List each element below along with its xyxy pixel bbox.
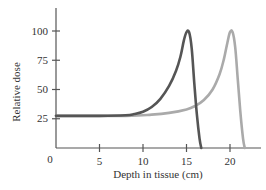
dose-depth-chart: 100 75 50 25 0 5 10 15 20 Depth in tissu… [0,0,266,190]
y-tick-label-100: 100 [32,25,49,37]
y-axis-label: Relative dose [10,62,22,122]
y-tick-label-25: 25 [37,112,49,124]
y-tick-label-75: 75 [37,54,49,66]
dose-curve-20cm-dark [56,30,201,148]
x-tick-label-0: 0 [47,153,53,165]
x-tick-label-5: 5 [97,155,103,167]
x-tick-label-20: 20 [225,155,237,167]
x-axis-label: Depth in tissue (cm) [113,168,203,181]
y-tick-label-50: 50 [37,83,49,95]
x-tick-label-10: 10 [138,155,150,167]
dose-curve-15cm [56,30,245,148]
x-tick-label-15: 15 [181,155,193,167]
